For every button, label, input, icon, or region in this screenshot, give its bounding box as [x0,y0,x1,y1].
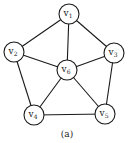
graph-diagram: v1v2v3v4v5v6 (a) [0,0,138,143]
figure-caption: (a) [61,129,73,139]
node-v5: v5 [95,104,115,124]
node-v4: v4 [24,105,44,125]
node-v6: v6 [57,60,77,80]
graph-canvas: v1v2v3v4v5v6 (a) [0,0,138,143]
edge-v4-v5 [34,114,105,115]
nodes: v1v2v3v4v5v6 [4,4,124,125]
node-v1: v1 [59,4,79,24]
node-v3: v3 [104,43,124,63]
node-v2: v2 [4,42,24,62]
